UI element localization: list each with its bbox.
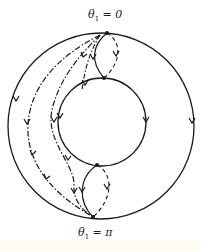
node-bottom-inner [95,163,99,167]
node-bottom-outer [91,215,95,219]
inner-circle [58,78,146,166]
subscript: 1 [85,233,89,241]
bottom-solid-connector [82,165,97,217]
label-value: = π [93,226,113,239]
top-dashed-arrow-icon [113,51,119,56]
theta-symbol: θ [78,226,85,239]
label-theta-pi: θ1 = π [78,226,113,241]
bottom-dashed-connector [93,165,109,217]
outer-circle [8,33,194,219]
node-top-inner [102,76,106,80]
label-theta-zero: θ1 = 0 [88,8,122,23]
inner-arrow-icons [57,113,149,122]
node-top-outer [105,31,109,35]
outer-arrow-icons [13,96,195,123]
dash-dot-path-outer [28,35,100,215]
bottom-dashed-arrow-icon [104,184,110,189]
phase-diagram [0,0,201,251]
top-solid-connector [95,33,107,78]
label-value: = 0 [103,8,123,21]
theta-symbol: θ [88,8,95,21]
dash-dot-inner-arrow-icons [51,52,87,193]
subscript: 1 [95,15,99,23]
